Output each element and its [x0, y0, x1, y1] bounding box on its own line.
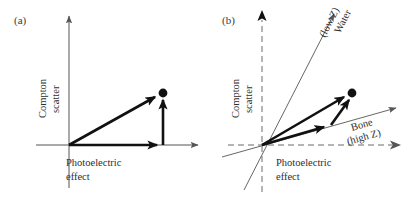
figure-container: (a) Compton scatter Photoelectric effect… [0, 0, 417, 201]
panel-a: (a) Compton scatter Photoelectric effect [14, 14, 198, 188]
panel-b-x-axis-label-line1: Photoelectric [276, 157, 332, 168]
panel-a-label: (a) [14, 14, 27, 27]
panel-a-x-axis-label-line1: Photoelectric [66, 157, 122, 168]
panel-b-y-axis-arrowhead [257, 10, 266, 21]
panel-b-y-axis-label-line1: Compton [230, 78, 241, 118]
figure-svg: (a) Compton scatter Photoelectric effect… [0, 0, 417, 201]
panel-b-x-axis-label-line2: effect [276, 171, 300, 182]
panel-b-y-axis-label-line2: scatter [243, 85, 254, 113]
panel-b: (b) Compton scatter Photoelectric effect… [222, 5, 401, 192]
panel-a-resultant-vector [69, 97, 155, 145]
panel-b-label: (b) [222, 14, 235, 27]
panel-a-y-axis-label-line2: scatter [50, 85, 61, 113]
panel-a-y-axis-label-line1: Compton [37, 78, 48, 118]
panel-b-measurement-point [348, 89, 357, 98]
panel-a-x-axis-label-line2: effect [66, 171, 90, 182]
panel-a-measurement-point [159, 89, 168, 98]
panel-b-resultant-vector [262, 97, 344, 145]
